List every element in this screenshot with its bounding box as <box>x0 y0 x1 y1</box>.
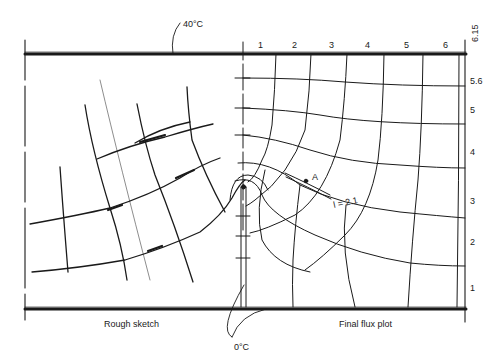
top-axis-tick-5: 5 <box>404 40 409 50</box>
bottom-boundary <box>25 307 466 309</box>
top-axis-end-label: 6.15 <box>470 24 480 42</box>
top-axis-tick-4: 4 <box>365 40 370 50</box>
top-axis-tick-1: 1 <box>258 40 263 50</box>
leader-0c <box>227 285 266 337</box>
top-axis-tick-2: 2 <box>292 40 297 50</box>
top-boundary-label: 40°C <box>183 19 204 29</box>
square-a-highlight <box>285 173 331 199</box>
top-boundary <box>25 52 466 54</box>
flux-plot-svg: 40°C 0°C 1 2 3 4 5 6 6.15 5.6 5 4 3 2 1 … <box>0 0 503 359</box>
point-a-label: A <box>312 172 318 182</box>
top-axis-tick-6: 6 <box>443 40 448 50</box>
leader-40c <box>172 23 180 54</box>
point-a-marker <box>304 179 308 183</box>
caption-rough-sketch: Rough sketch <box>104 319 159 329</box>
right-axis-tick-5-6: 5.6 <box>470 76 483 86</box>
caption-final-flux-plot: Final flux plot <box>339 319 393 329</box>
right-axis-tick-4: 4 <box>470 147 475 157</box>
bottom-boundary-label: 0°C <box>234 342 250 352</box>
flux-lines <box>246 54 459 307</box>
right-axis-tick-2: 2 <box>470 237 475 247</box>
right-axis-tick-3: 3 <box>470 196 475 206</box>
right-axis-tick-5: 5 <box>470 105 475 115</box>
equipotential-lines <box>235 78 465 266</box>
rough-sketch-lines <box>30 80 245 282</box>
top-axis-tick-3: 3 <box>329 40 334 50</box>
right-axis-tick-1: 1 <box>470 283 475 293</box>
flux-plot-figure: 40°C 0°C 1 2 3 4 5 6 6.15 5.6 5 4 3 2 1 … <box>0 0 503 359</box>
